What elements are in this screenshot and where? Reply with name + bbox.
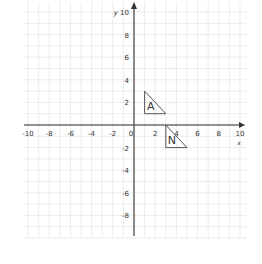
y-tick-label: 6 xyxy=(125,54,130,62)
axes xyxy=(24,2,245,236)
grid-lines xyxy=(24,2,246,238)
x-axis-arrow-icon xyxy=(239,122,245,128)
coordinate-grid-diagram: -10-8-6-4-20246810x108642-2-4-6-8y AN xyxy=(0,0,262,264)
triangle-label: N xyxy=(168,134,176,147)
y-axis-arrow-icon xyxy=(131,2,137,9)
y-axis-label: y xyxy=(113,9,119,17)
y-tick-label: -6 xyxy=(122,190,130,198)
triangle-label: A xyxy=(147,100,155,113)
x-tick-label: -4 xyxy=(88,130,96,138)
y-tick-label: 8 xyxy=(125,32,129,40)
x-tick-label: 8 xyxy=(217,130,221,138)
y-tick-label: -4 xyxy=(122,167,130,175)
x-tick-label: -2 xyxy=(109,130,116,138)
y-tick-label: -2 xyxy=(122,145,129,153)
x-tick-label: 0 xyxy=(129,130,133,138)
x-tick-label: 10 xyxy=(236,130,245,138)
y-tick-label: 2 xyxy=(125,99,129,107)
x-tick-label: 2 xyxy=(153,130,157,138)
x-tick-label: -8 xyxy=(46,130,53,138)
x-axis-label: x xyxy=(236,139,241,146)
y-tick-label: -8 xyxy=(122,212,129,220)
x-tick-label: -10 xyxy=(22,130,33,138)
x-tick-label: 6 xyxy=(195,130,200,138)
y-tick-label: 10 xyxy=(120,9,129,17)
coordinate-plane: -10-8-6-4-20246810x108642-2-4-6-8y AN xyxy=(0,0,262,264)
tick-labels: -10-8-6-4-20246810x108642-2-4-6-8y xyxy=(22,9,244,220)
x-tick-label: -6 xyxy=(67,130,75,138)
y-tick-label: 4 xyxy=(125,77,130,85)
